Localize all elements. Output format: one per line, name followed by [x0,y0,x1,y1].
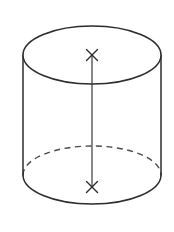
cylinder-figure-svg [0,0,174,232]
cylinder-diagram [0,0,174,232]
